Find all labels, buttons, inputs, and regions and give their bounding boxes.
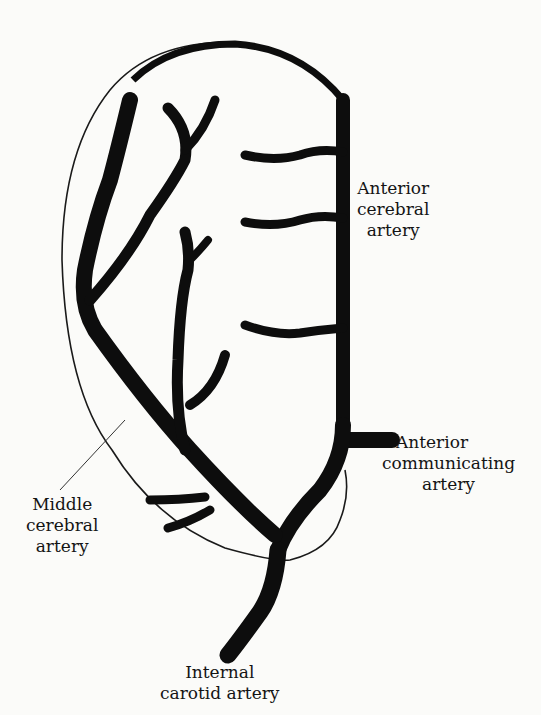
label-line: artery <box>26 536 98 557</box>
label-middle-cerebral-artery: Middle cerebral artery <box>26 494 98 557</box>
internal-carotid-artery <box>228 550 278 655</box>
label-line: communicating <box>382 453 515 474</box>
label-line: Anterior <box>357 178 429 199</box>
mca-middle-side <box>190 355 225 405</box>
aca-branch-3 <box>245 325 343 334</box>
mca-lower-branch-1 <box>150 497 205 500</box>
label-line: Anterior <box>382 432 515 453</box>
aca-branch-1 <box>245 151 343 159</box>
mca-upper-fork <box>185 100 215 150</box>
aca-to-carotid <box>278 425 343 550</box>
label-line: Internal <box>160 662 279 683</box>
label-line: artery <box>382 474 515 495</box>
label-anterior-cerebral-artery: Anterior cerebral artery <box>357 178 429 241</box>
label-internal-carotid-artery: Internal carotid artery <box>160 662 279 704</box>
cerebral-artery-diagram <box>0 0 541 715</box>
label-line: cerebral <box>26 515 98 536</box>
label-line: Middle <box>26 494 98 515</box>
label-line: artery <box>357 220 429 241</box>
label-line: cerebral <box>357 199 429 220</box>
label-anterior-communicating-artery: Anterior communicating artery <box>382 432 515 495</box>
aca-branch-2 <box>245 216 343 224</box>
label-line: carotid artery <box>160 683 279 704</box>
